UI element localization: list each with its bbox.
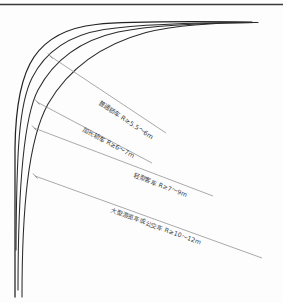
turning-curve-3 [18, 23, 256, 291]
leader-line-1 [50, 56, 166, 133]
turning-radius-figure: 普通轿车 R≥5.5～6m 加长轿车 R≥6～7m 轻型客车 R≥7～9m 大型… [0, 0, 283, 303]
leader-tick-3 [32, 126, 37, 131]
leader-tick-4 [33, 174, 38, 179]
leader-line-4 [35, 176, 262, 258]
figure-canvas: 普通轿车 R≥5.5～6m 加长轿车 R≥6～7m 轻型客车 R≥7～9m 大型… [0, 0, 283, 303]
label-large-tour-or-public-bus: 大型游览车或公交车 R≥10～12m [109, 206, 202, 246]
label-stretch-sedan: 加长轿车 R≥6～7m [81, 125, 136, 160]
turning-curve-1 [15, 22, 252, 297]
label-light-bus: 轻型客车 R≥7～9m [132, 171, 188, 199]
leader-tick-2 [35, 100, 40, 105]
leader-tick-1 [48, 54, 53, 59]
leader-line-3 [34, 128, 213, 196]
